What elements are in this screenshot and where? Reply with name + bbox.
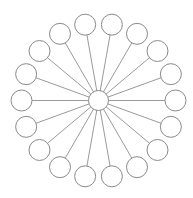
outer-node (75, 14, 96, 35)
outer-node (165, 90, 186, 111)
outer-node (16, 116, 37, 137)
outer-node (101, 14, 122, 35)
outer-node (29, 41, 50, 62)
outer-node (50, 23, 71, 44)
outer-node (29, 139, 50, 160)
outer-node (101, 166, 122, 187)
outer-node (160, 64, 181, 85)
outer-node (147, 139, 168, 160)
hub-node (89, 91, 109, 111)
outer-node (147, 41, 168, 62)
outer-node (75, 166, 96, 187)
outer-node (50, 157, 71, 178)
outer-node (16, 64, 37, 85)
outer-node (160, 116, 181, 137)
hub-spoke-diagram (0, 0, 193, 198)
outer-node (127, 157, 148, 178)
outer-node (127, 23, 148, 44)
outer-node (11, 90, 32, 111)
